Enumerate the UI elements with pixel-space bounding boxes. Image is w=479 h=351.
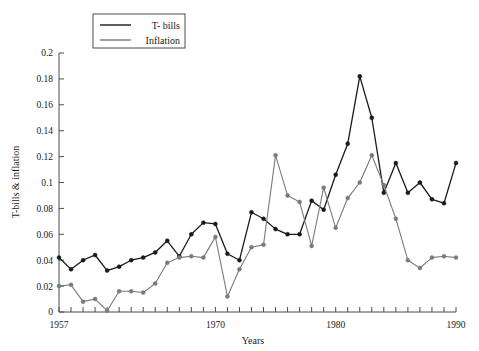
data-point xyxy=(129,289,133,293)
data-point xyxy=(346,142,350,146)
x-axis-tick-labels: 1957197019801990 xyxy=(50,320,466,330)
legend-label-inflation: Inflation xyxy=(146,35,180,46)
data-point xyxy=(442,254,446,258)
data-point xyxy=(213,222,217,226)
y-tick-label: 0.08 xyxy=(36,204,53,214)
series-t-bills xyxy=(57,74,458,272)
data-point xyxy=(322,186,326,190)
data-point xyxy=(334,226,338,230)
data-point xyxy=(57,284,61,288)
data-point xyxy=(93,297,97,301)
data-point xyxy=(237,258,241,262)
data-point xyxy=(153,282,157,286)
data-point xyxy=(105,269,109,273)
y-tick-label: 0.06 xyxy=(36,230,53,240)
data-series-group xyxy=(57,74,458,312)
data-point xyxy=(177,256,181,260)
y-axis-tick-labels: 00.020.040.060.080.10.120.140.160.180.2 xyxy=(36,48,53,317)
data-point xyxy=(382,191,386,195)
data-point xyxy=(322,208,326,212)
data-point xyxy=(189,232,193,236)
data-point xyxy=(249,245,253,249)
data-point xyxy=(153,250,157,254)
data-point xyxy=(69,283,73,287)
data-point xyxy=(262,217,266,221)
data-point xyxy=(225,294,229,298)
y-tick-label: 0.04 xyxy=(36,256,53,266)
y-tick-label: 0.18 xyxy=(36,74,53,84)
series-inflation xyxy=(57,153,458,312)
data-point xyxy=(418,266,422,270)
data-point xyxy=(298,232,302,236)
data-point xyxy=(262,243,266,247)
data-point xyxy=(81,258,85,262)
data-point xyxy=(394,161,398,165)
series-line xyxy=(59,155,456,310)
chart-container: 00.020.040.060.080.10.120.140.160.180.2 … xyxy=(0,0,479,351)
data-point xyxy=(213,235,217,239)
x-axis-ticks xyxy=(59,307,456,312)
data-point xyxy=(298,200,302,204)
x-axis-title: Years xyxy=(242,335,264,346)
legend-label-t-bills: T- bills xyxy=(152,20,180,31)
x-tick-label: 1980 xyxy=(326,320,345,330)
data-point xyxy=(141,256,145,260)
data-point xyxy=(370,116,374,120)
data-point xyxy=(129,258,133,262)
x-tick-label: 1957 xyxy=(50,320,69,330)
data-point xyxy=(442,201,446,205)
x-tick-label: 1990 xyxy=(447,320,466,330)
y-tick-label: 0.12 xyxy=(36,152,53,162)
data-point xyxy=(57,256,61,260)
data-point xyxy=(93,253,97,257)
data-point xyxy=(165,239,169,243)
data-point xyxy=(418,181,422,185)
data-point xyxy=(370,153,374,157)
data-point xyxy=(454,256,458,260)
data-point xyxy=(310,199,314,203)
data-point xyxy=(201,256,205,260)
y-tick-label: 0.2 xyxy=(41,48,53,58)
series-line xyxy=(59,76,456,270)
data-point xyxy=(346,196,350,200)
data-point xyxy=(310,244,314,248)
data-point xyxy=(358,181,362,185)
data-point xyxy=(141,291,145,295)
data-point xyxy=(358,74,362,78)
y-tick-label: 0 xyxy=(48,307,53,317)
data-point xyxy=(105,309,109,313)
data-point xyxy=(201,221,205,225)
data-point xyxy=(286,232,290,236)
y-tick-label: 0.14 xyxy=(36,126,53,136)
data-point xyxy=(117,289,121,293)
data-point xyxy=(69,267,73,271)
data-point xyxy=(406,191,410,195)
data-point xyxy=(382,183,386,187)
y-axis-title: T-bills & inflation xyxy=(10,146,21,218)
data-point xyxy=(237,267,241,271)
data-point xyxy=(274,227,278,231)
chart-legend: T- bills Inflation xyxy=(93,14,185,48)
data-point xyxy=(430,197,434,201)
data-point xyxy=(189,254,193,258)
y-tick-label: 0.1 xyxy=(41,178,53,188)
data-point xyxy=(334,173,338,177)
data-point xyxy=(286,193,290,197)
data-point xyxy=(225,252,229,256)
y-axis-ticks xyxy=(59,53,64,312)
data-point xyxy=(81,300,85,304)
data-point xyxy=(394,217,398,221)
data-point xyxy=(406,258,410,262)
axes-group xyxy=(59,53,456,312)
data-point xyxy=(454,161,458,165)
data-point xyxy=(249,210,253,214)
y-tick-label: 0.16 xyxy=(36,100,53,110)
data-point xyxy=(430,256,434,260)
line-chart: 00.020.040.060.080.10.120.140.160.180.2 … xyxy=(0,0,479,351)
x-tick-label: 1970 xyxy=(206,320,225,330)
data-point xyxy=(117,265,121,269)
y-tick-label: 0.02 xyxy=(36,282,53,292)
data-point xyxy=(274,153,278,157)
data-point xyxy=(165,261,169,265)
